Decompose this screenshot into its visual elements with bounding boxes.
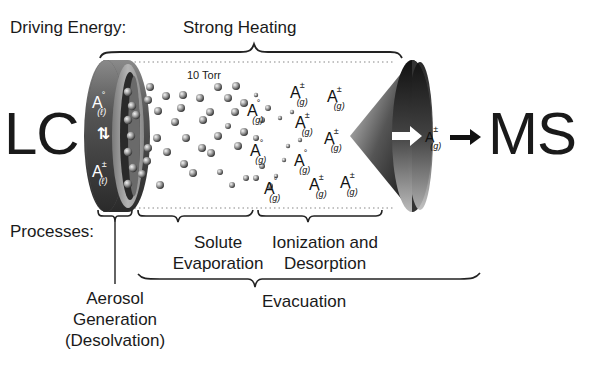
gas-ion-species: A±(g) (324, 128, 342, 153)
processes-label: Processes: (10, 222, 94, 241)
solute-evaporation-label: Solute Evaporation (160, 232, 276, 274)
lc-label: LC (4, 104, 79, 164)
gas-ion-species: A±(g) (309, 174, 327, 199)
gas-neutral-species: A°(g) (294, 150, 310, 175)
aerosol-ring (84, 60, 150, 212)
ms-inlet-cone (350, 60, 433, 212)
gas-neutral-species: A°(g) (247, 100, 263, 125)
droplets (124, 82, 302, 189)
pressure-label: 10 Torr (187, 69, 221, 81)
top-brace (100, 44, 402, 58)
gas-neutral-species: A°(g) (264, 178, 280, 203)
ionization-desorption-label: Ionization and Desorption (262, 232, 388, 274)
arrow-to-ms (450, 129, 481, 145)
gas-ion-species: A±(g) (340, 172, 358, 197)
gas-ion-species: A±(g) (295, 112, 313, 137)
aerosol-generation-label: Aerosol Generation (Desolvation) (55, 288, 175, 351)
gas-ion-species: A±(g) (290, 82, 308, 107)
ms-label: MS (488, 104, 576, 164)
gas-neutral-species: A°(g) (250, 140, 266, 165)
liquid-neutral-species: A°(ℓ) (92, 92, 106, 117)
gas-ion-species: A±(g) (327, 86, 345, 111)
evacuation-label: Evacuation (262, 292, 346, 311)
driving-energy-value: Strong Heating (183, 18, 296, 37)
driving-energy-label: Driving Energy: (10, 18, 126, 37)
gas-ion-species-exit: A±(g) (425, 126, 441, 151)
equilibrium-icon: ⇅ (97, 124, 110, 143)
liquid-ion-species: A±(ℓ) (92, 161, 108, 186)
